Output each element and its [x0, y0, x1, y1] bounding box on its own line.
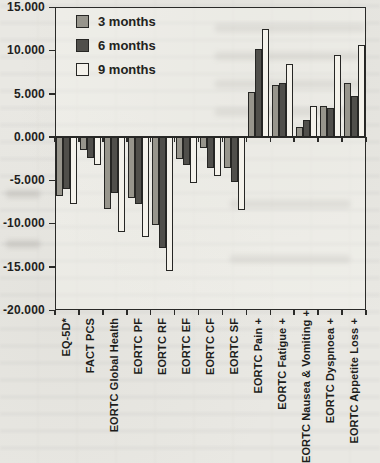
y-tick-label: 15.000	[0, 0, 45, 14]
bar	[111, 137, 118, 193]
bar	[272, 85, 279, 137]
legend-label-9-months: 9 months	[98, 62, 156, 77]
x-axis-tick	[78, 310, 80, 315]
bar	[224, 137, 231, 168]
x-axis-tick	[126, 310, 128, 315]
x-axis-tick	[222, 310, 224, 315]
x-axis-tick	[341, 310, 343, 315]
bar	[183, 137, 190, 165]
category-label: EORTC Appetite Loss +	[348, 318, 361, 463]
bar	[128, 137, 135, 198]
y-axis-tick	[49, 7, 55, 9]
bar	[238, 137, 245, 210]
y-tick-label: 0.000	[0, 130, 45, 144]
bar	[214, 137, 221, 176]
category-label: EORTC CF	[204, 318, 217, 463]
bar	[296, 127, 303, 137]
bar	[142, 137, 149, 237]
bar	[63, 137, 70, 189]
x-axis-tick	[317, 310, 319, 315]
bar	[166, 137, 173, 271]
category-label: EORTC EF	[180, 318, 193, 463]
baseline-tick	[270, 137, 272, 142]
legend-label-3-months: 3 months	[98, 14, 156, 29]
category-label: EORTC Pain +	[252, 318, 265, 463]
bar	[207, 137, 214, 168]
legend-swatch-6-months	[76, 39, 89, 52]
category-label: EQ-5D*	[60, 318, 73, 463]
bar	[94, 137, 101, 165]
y-axis-tick	[49, 223, 55, 225]
legend-item-9-months: 9 months	[76, 62, 156, 77]
bar	[70, 137, 77, 205]
bar	[152, 137, 159, 225]
x-axis-tick	[198, 310, 200, 315]
x-axis-tick	[270, 310, 272, 315]
baseline-tick	[246, 137, 248, 142]
baseline-tick	[317, 137, 319, 142]
bar	[320, 106, 327, 137]
legend-item-3-months: 3 months	[76, 14, 156, 29]
bar	[135, 137, 142, 205]
y-tick-label: -5.000	[0, 173, 45, 187]
bar	[310, 106, 317, 137]
category-label: EORTC Nausea & Vomiting +	[300, 318, 313, 463]
baseline-tick	[293, 137, 295, 142]
bar	[286, 64, 293, 137]
bar-chart: 15.00010.0005.0000.000-5.000-10.000-15.0…	[0, 0, 380, 463]
baseline-tick	[365, 137, 367, 142]
bar	[56, 137, 63, 196]
legend-label-6-months: 6 months	[98, 38, 156, 53]
y-axis-tick	[49, 266, 55, 268]
bar	[176, 137, 183, 160]
bar	[231, 137, 238, 182]
bar	[303, 120, 310, 137]
chart-layer: 15.00010.0005.0000.000-5.000-10.000-15.0…	[0, 0, 380, 463]
category-label: EORTC Dyspnoea +	[324, 318, 337, 463]
x-axis-tick	[102, 310, 104, 315]
category-label: FACT PCS	[84, 318, 97, 463]
x-axis-tick	[365, 310, 367, 315]
bar	[190, 137, 197, 183]
x-axis-tick	[174, 310, 176, 315]
category-label: EORTC PF	[132, 318, 145, 463]
y-tick-label: 5.000	[0, 87, 45, 101]
bar	[358, 45, 365, 137]
legend-item-6-months: 6 months	[76, 38, 156, 53]
bar	[334, 55, 341, 136]
y-axis-tick	[49, 180, 55, 182]
y-axis-tick	[49, 93, 55, 95]
bar	[255, 49, 262, 136]
legend-swatch-3-months	[76, 15, 89, 28]
y-tick-label: -20.000	[0, 303, 45, 317]
bar	[248, 92, 255, 137]
bar	[118, 137, 125, 232]
x-axis-tick	[54, 310, 56, 315]
bar	[87, 137, 94, 158]
x-axis-tick	[246, 310, 248, 315]
x-axis-tick	[293, 310, 295, 315]
x-axis-tick	[150, 310, 152, 315]
y-tick-label: -15.000	[0, 260, 45, 274]
y-axis-tick	[49, 50, 55, 52]
scanned-page-background: 15.00010.0005.0000.000-5.000-10.000-15.0…	[0, 0, 380, 463]
legend-swatch-9-months	[76, 63, 89, 76]
category-label: EORTC RF	[156, 318, 169, 463]
bar	[200, 137, 207, 148]
category-label: EORTC Fatigue +	[276, 318, 289, 463]
bar	[351, 96, 358, 137]
bar	[104, 137, 111, 209]
y-tick-label: -10.000	[0, 216, 45, 230]
bar	[344, 83, 351, 137]
bar	[279, 83, 286, 137]
baseline-tick	[341, 137, 343, 142]
category-label: EORTC Global Health	[108, 318, 121, 463]
bar	[80, 137, 87, 150]
bar	[327, 108, 334, 137]
bar	[262, 29, 269, 137]
bar	[159, 137, 166, 248]
chart-legend: 3 months 6 months 9 months	[76, 14, 156, 86]
category-label: EORTC SF	[228, 318, 241, 463]
y-tick-label: 10.000	[0, 43, 45, 57]
